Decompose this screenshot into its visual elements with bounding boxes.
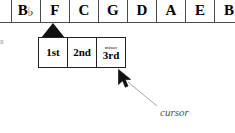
note-cell-g[interactable]: G (99, 0, 128, 22)
mouse-cursor-icon (117, 69, 133, 89)
note-cell-label: D (136, 3, 147, 18)
note-cell-label: F (50, 3, 59, 18)
selection-triangle-icon (41, 23, 65, 38)
note-cell-bflat[interactable]: B♭ (12, 0, 41, 22)
interval-cell-1st[interactable]: 1st (39, 38, 68, 67)
interval-cell-2nd[interactable]: 2nd (68, 38, 97, 67)
note-cell-label: B♭ (18, 3, 35, 18)
note-name-strip: B♭ F C G D A E B (0, 0, 235, 23)
note-cell-label: B (224, 3, 234, 18)
interval-name: 2nd (73, 47, 91, 58)
note-cell-label: C (78, 3, 89, 18)
note-cell-label: E (195, 3, 205, 18)
note-cell-partial-left[interactable] (0, 0, 12, 22)
note-cell-label: G (107, 3, 119, 18)
note-cell-d[interactable]: D (128, 0, 157, 22)
note-cell-a[interactable]: A (157, 0, 186, 22)
clipped-margin-text: es (0, 36, 4, 46)
note-cell-f[interactable]: F (41, 0, 70, 22)
cursor-annotation-label: cursor (160, 106, 189, 118)
interval-name: 1st (46, 47, 59, 58)
note-cell-b[interactable]: B (215, 0, 235, 22)
note-cell-label: A (165, 3, 176, 18)
interval-name: 3rd (103, 50, 120, 61)
note-cell-c[interactable]: C (70, 0, 99, 22)
note-cell-e[interactable]: E (186, 0, 215, 22)
interval-cell-minor-3rd[interactable]: minor 3rd (97, 38, 125, 67)
flat-symbol-icon: ♭ (27, 4, 33, 19)
interval-popup: 1st 2nd minor 3rd (38, 37, 126, 68)
